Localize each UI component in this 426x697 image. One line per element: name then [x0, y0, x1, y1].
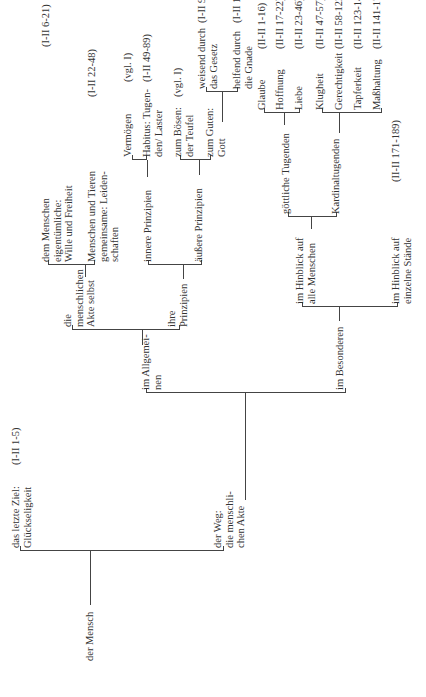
bracket	[146, 392, 346, 393]
node-prudence: Klugheit	[314, 73, 326, 110]
connector	[311, 217, 312, 229]
node-justice: Gerechtigkeit	[333, 53, 345, 110]
node-special: im Besonderen	[334, 327, 346, 390]
node-goal: das letzte Ziel: Glückseligkeit	[10, 486, 33, 548]
connector	[85, 265, 86, 277]
connector	[284, 113, 285, 125]
node-acts-human: dem Menschen eigentümliche: Wille und Fr…	[40, 185, 75, 262]
bracket	[20, 550, 224, 551]
bracket	[206, 91, 238, 92]
node-der-mensch: der Mensch	[84, 612, 96, 661]
connector	[147, 160, 148, 177]
ref-acts-common: (I-II 22-48)	[86, 49, 98, 97]
node-love: Liebe	[293, 86, 305, 110]
node-way: der Weg: die menschli- chen Akte	[212, 491, 247, 548]
node-acts: die menschlichen Akte selbst	[62, 269, 97, 327]
bracket	[132, 159, 147, 160]
node-cardinal: Kardinaltugenden	[330, 139, 342, 214]
connector	[199, 160, 200, 175]
bracket	[302, 306, 398, 307]
ref-fortitude: (II-II 123-140)	[352, 0, 364, 49]
bracket	[288, 216, 337, 217]
ref-goal: (I-II 1-5)	[10, 427, 22, 465]
node-fortitude: Tapferkeit	[352, 67, 364, 110]
connector	[183, 265, 184, 279]
bracket	[322, 112, 382, 113]
ref-prudence: (II-II 47-57)	[314, 0, 326, 49]
connector	[222, 92, 223, 122]
node-acts-common: Menschen und Tieren gemeinsame: Leiden- …	[86, 171, 121, 262]
node-habitus: Habitus: Tugen- den/ Laster	[141, 89, 164, 157]
ref-faith: (II-II 1-16)	[256, 3, 268, 49]
ref-evil: (vgl. I)	[172, 68, 184, 97]
node-temperance: Maßhaltung	[371, 59, 383, 110]
ref-justice: (II-II 58-122)	[333, 0, 345, 49]
ref-acts-human: (I-II 6-21)	[40, 4, 52, 47]
node-evil: zum Bösen: der Teufel	[172, 107, 195, 157]
node-theological: göttliche Tugenden	[280, 133, 292, 214]
tree-diagram: der Mensch das letzte Ziel: Glückseligke…	[0, 0, 426, 697]
node-outer: äußere Prinzipien	[193, 188, 205, 262]
bracket	[180, 159, 211, 160]
node-faith: Glaube	[256, 80, 268, 110]
bracket	[264, 112, 300, 113]
node-states: im Hinblick auf einzelne Stände	[390, 238, 413, 305]
connector	[339, 113, 340, 133]
node-faculties: Vermögen	[122, 114, 134, 157]
connector	[142, 330, 143, 345]
node-principles: ihre Prinzipien	[166, 284, 189, 327]
node-inner: innere Prinzipien	[142, 190, 154, 262]
node-grace: helfend durch die Gnade	[231, 31, 254, 89]
ref-faculties: (vgl. I)	[122, 53, 134, 82]
ref-temperance: (II-II 141-170)	[371, 0, 383, 49]
node-all-people: im Hinblick auf alle Menschen	[294, 238, 317, 305]
node-good: zum Guten: Gott	[204, 108, 227, 157]
ref-hope: (II-II 17-22)	[274, 0, 286, 49]
bracket	[72, 329, 180, 330]
node-general: im Allgemei- nen	[140, 334, 163, 390]
connector	[339, 307, 340, 321]
ref-love: (II-II 23-46)	[293, 0, 305, 49]
bracket	[148, 264, 202, 265]
connector	[245, 393, 246, 500]
connector	[90, 551, 91, 605]
ref-law: (I-II 90-108)	[196, 0, 208, 23]
ref-habitus: (I-II 49-89)	[141, 34, 153, 82]
ref-grace: (I-II 109-114)	[231, 0, 243, 23]
node-hope: Hoffnung	[274, 69, 286, 110]
ref-states: (II-II 171-189)	[390, 120, 402, 182]
node-law: weisend durch das Gesetz	[196, 28, 219, 89]
bracket	[48, 264, 95, 265]
